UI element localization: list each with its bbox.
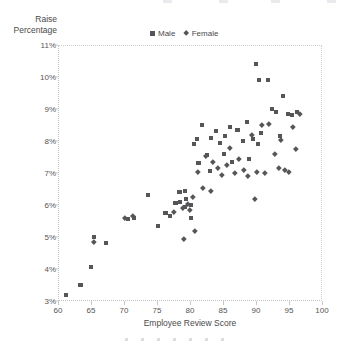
x-tick-mark: [157, 301, 158, 305]
data-point-male[interactable]: [228, 125, 232, 129]
pagination-dot[interactable]: [141, 338, 144, 341]
y-tick-label: 3%: [10, 297, 56, 306]
data-point-male[interactable]: [256, 142, 260, 146]
x-tick-mark: [256, 301, 257, 305]
pagination-dot[interactable]: [157, 338, 160, 341]
x-tick-mark: [223, 301, 224, 305]
data-point-male[interactable]: [259, 131, 263, 135]
x-tick-label: 95: [274, 306, 304, 315]
data-point-male[interactable]: [156, 224, 160, 228]
data-point-male[interactable]: [200, 123, 204, 127]
x-tick-mark: [289, 301, 290, 305]
x-tick-label: 90: [241, 306, 271, 315]
y-tick-label: 8%: [10, 137, 56, 146]
data-point-male[interactable]: [247, 157, 251, 161]
data-point-male[interactable]: [214, 129, 218, 133]
y-tick-label: 7%: [10, 169, 56, 178]
data-point-male[interactable]: [192, 142, 196, 146]
x-tick-label: 80: [175, 306, 205, 315]
data-point-male[interactable]: [274, 110, 278, 114]
pagination-dot[interactable]: [173, 338, 176, 341]
x-tick-mark: [58, 301, 59, 305]
legend-label-male: Male: [158, 29, 175, 38]
data-point-male[interactable]: [196, 161, 200, 165]
data-point-male[interactable]: [222, 152, 226, 156]
x-axis-title: Employee Review Score: [58, 318, 322, 328]
y-tick-label: 10%: [10, 73, 56, 82]
data-point-male[interactable]: [168, 214, 172, 218]
x-tick-label: 100: [307, 306, 337, 315]
data-point-male[interactable]: [254, 62, 258, 66]
y-tick-label: 4%: [10, 265, 56, 274]
legend-item-male[interactable]: Male: [150, 29, 175, 38]
data-point-male[interactable]: [241, 139, 245, 143]
legend-label-female: Female: [192, 29, 219, 38]
data-point-male[interactable]: [89, 265, 93, 269]
y-tick-label: 5%: [10, 233, 56, 242]
female-marker-icon: [183, 30, 189, 36]
x-tick-label: 60: [43, 306, 73, 315]
legend-item-female[interactable]: Female: [184, 29, 218, 38]
data-point-male[interactable]: [266, 78, 270, 82]
scatter-chart: Raise Percentage Male Female 3%4%5%6%7%8…: [0, 0, 348, 330]
data-point-male[interactable]: [64, 293, 68, 297]
y-tick-label: 9%: [10, 105, 56, 114]
data-point-male[interactable]: [146, 193, 150, 197]
data-point-male[interactable]: [290, 113, 294, 117]
pagination-dot[interactable]: [189, 338, 192, 341]
data-point-male[interactable]: [183, 189, 187, 193]
data-point-male[interactable]: [223, 134, 227, 138]
data-point-male[interactable]: [177, 190, 181, 194]
x-tick-label: 65: [76, 306, 106, 315]
data-point-male[interactable]: [257, 78, 261, 82]
data-point-male[interactable]: [173, 201, 177, 205]
data-point-male[interactable]: [251, 137, 255, 141]
data-point-male[interactable]: [78, 283, 82, 287]
data-point-male[interactable]: [189, 216, 193, 220]
x-tick-label: 75: [142, 306, 172, 315]
data-point-male[interactable]: [104, 241, 108, 245]
y-axis-title: Raise Percentage: [0, 14, 57, 35]
y-tick-label: 6%: [10, 201, 56, 210]
data-point-male[interactable]: [281, 94, 285, 98]
data-point-male[interactable]: [195, 137, 199, 141]
x-tick-mark: [322, 301, 323, 305]
pagination-dot[interactable]: [125, 338, 128, 341]
data-point-male[interactable]: [209, 136, 213, 140]
pagination-dots[interactable]: [0, 338, 348, 341]
data-point-male[interactable]: [208, 169, 212, 173]
x-tick-mark: [91, 301, 92, 305]
data-point-male[interactable]: [178, 200, 182, 204]
data-point-male[interactable]: [218, 141, 222, 145]
male-marker-icon: [150, 31, 155, 36]
x-tick-label: 85: [208, 306, 238, 315]
data-point-male[interactable]: [230, 160, 234, 164]
plot-area: [58, 45, 322, 301]
chart-legend: Male Female: [150, 29, 218, 38]
pagination-dot[interactable]: [221, 338, 224, 341]
data-point-male[interactable]: [235, 128, 239, 132]
x-tick-label: 70: [109, 306, 139, 315]
data-point-male[interactable]: [163, 211, 167, 215]
x-tick-mark: [190, 301, 191, 305]
pagination-dot[interactable]: [205, 338, 208, 341]
y-tick-label: 11%: [10, 41, 56, 50]
data-point-male[interactable]: [245, 120, 249, 124]
x-tick-mark: [124, 301, 125, 305]
